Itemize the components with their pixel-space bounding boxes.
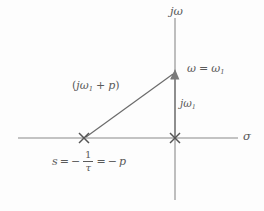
- equals-symbol: =: [199, 62, 208, 75]
- omega-symbol: ω: [183, 97, 192, 109]
- p-symbol: p: [119, 156, 126, 167]
- s-plane-diagram: jω ω=ω1 (jω1+p) jω1 σ s = − 1 τ = −p: [0, 0, 264, 211]
- diagram-canvas: [0, 0, 264, 211]
- equals-symbol-1: =: [60, 156, 69, 167]
- omega-subscript: 1: [89, 85, 93, 93]
- pole-vector-label: (jω1+p): [72, 80, 120, 93]
- fraction-numerator: 1: [83, 150, 93, 161]
- plus-symbol: +: [96, 79, 105, 92]
- minus-symbol-2: −: [108, 156, 117, 167]
- sigma-axis-label-text: σ: [243, 129, 251, 143]
- equals-symbol-2: =: [96, 156, 105, 167]
- omega-subscript: 1: [192, 103, 196, 111]
- sigma-axis-label: σ: [243, 131, 251, 143]
- tau-fraction: 1 τ: [83, 150, 93, 173]
- omega-equals-omega1-label: ω=ω1: [187, 63, 225, 76]
- omega-subscript: 1: [220, 68, 224, 76]
- omega-symbol-2: ω: [211, 62, 220, 75]
- paren-close: ): [115, 79, 119, 92]
- omega-symbol: ω: [187, 62, 196, 75]
- jomega1-label: jω1: [180, 98, 196, 110]
- fraction-denominator: τ: [84, 162, 94, 173]
- jomega-axis-label-text: jω: [170, 4, 183, 18]
- s-symbol: s: [52, 156, 58, 167]
- jomega-axis-label: jω: [170, 6, 183, 18]
- omega-symbol: ω: [80, 79, 89, 92]
- minus-symbol-1: −: [71, 156, 80, 167]
- pole-value-label: s = − 1 τ = −p: [52, 150, 126, 173]
